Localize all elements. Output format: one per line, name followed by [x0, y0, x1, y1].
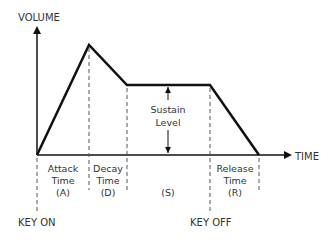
sustain-phase-label: (S) — [161, 187, 174, 198]
key-on-label: KEY ON — [18, 217, 56, 228]
sustain-label-line2: Level — [155, 117, 180, 128]
x-axis-label: TIME — [294, 151, 319, 162]
decay-label-line1: Decay — [93, 163, 123, 174]
adsr-diagram: VOLUME TIME Sustain Level Attack Time (A… — [0, 0, 334, 242]
attack-label-line3: (A) — [56, 187, 70, 198]
sustain-arrow-up-icon — [165, 87, 171, 93]
release-label-line1: Release — [216, 163, 253, 174]
y-axis-label: VOLUME — [18, 12, 60, 23]
key-off-label: KEY OFF — [190, 217, 232, 228]
sustain-label-line1: Sustain — [150, 104, 185, 115]
release-label-line2: Time — [222, 175, 246, 186]
envelope-curve — [37, 45, 259, 155]
sustain-arrow-down-icon — [165, 147, 171, 153]
release-label-line3: (R) — [228, 187, 242, 198]
attack-label-line2: Time — [50, 175, 74, 186]
decay-label-line3: (D) — [101, 187, 116, 198]
decay-label-line2: Time — [95, 175, 119, 186]
attack-label-line1: Attack — [48, 163, 79, 174]
